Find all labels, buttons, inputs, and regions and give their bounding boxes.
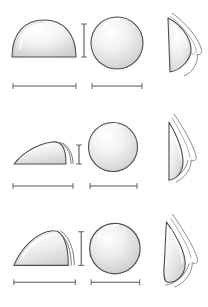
implant-row: Low profile implant: [0, 102, 208, 204]
base-circle: [91, 17, 143, 69]
side-profile-teardrop-high: [14, 231, 68, 266]
height-dimension-bar: [81, 24, 87, 57]
row-1-graphic: [0, 0, 208, 102]
width-dimension-line: [14, 279, 75, 285]
base-circle: [90, 223, 141, 274]
height-dimension-bar: [78, 232, 84, 266]
implant-in-breast: [168, 13, 202, 76]
width-dimension-line: [13, 183, 73, 189]
width-dimension-line: [13, 83, 76, 89]
side-profile-dome: [12, 20, 76, 57]
implant-row: Moderate profile implant: [0, 0, 208, 102]
width-dimension-line: [90, 183, 137, 189]
implant-row: High profile implant: [0, 204, 208, 306]
width-dimension-line: [92, 83, 142, 89]
height-dimension-bar: [76, 145, 82, 164]
row-2-graphic: [0, 102, 208, 204]
row-3-graphic: [0, 204, 208, 306]
width-dimension-line: [91, 279, 140, 285]
side-profile-teardrop-low: [14, 142, 66, 164]
implant-in-breast: [168, 114, 196, 182]
implant-profile-diagram: Moderate profile implant: [0, 0, 208, 307]
implant-in-breast: [164, 214, 198, 287]
base-circle: [89, 123, 138, 172]
